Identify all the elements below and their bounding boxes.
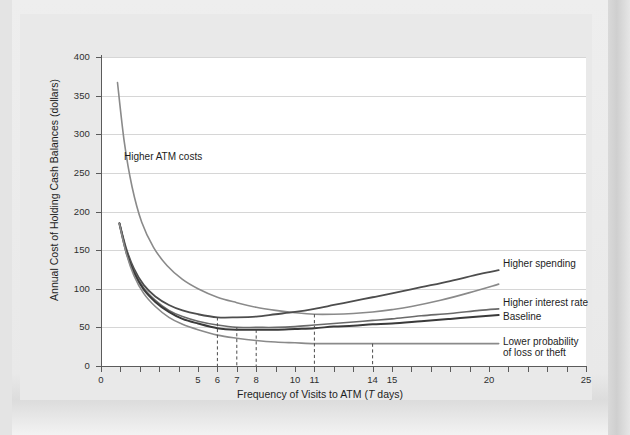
chart-figure: 400 350 300 250 200 150 100 50 0 xyxy=(20,14,592,400)
curve-label-higher-interest: Higher interest rate xyxy=(503,297,588,309)
curve-label-baseline: Baseline xyxy=(503,311,541,323)
curve-higher-atm-costs xyxy=(117,82,498,314)
curve-higher-spending xyxy=(119,223,498,318)
curve-label-lower-prob-line2: of loss or theft xyxy=(503,347,566,359)
figure-root: 400 350 300 250 200 150 100 50 0 xyxy=(0,0,630,435)
page-left-edge xyxy=(0,0,12,435)
page-right-edge xyxy=(608,0,630,435)
curve-label-higher-spending: Higher spending xyxy=(503,258,576,270)
annotation-higher-atm-costs: Higher ATM costs xyxy=(124,151,202,162)
curve-label-lower-prob-line1: Lower probability xyxy=(503,336,579,348)
